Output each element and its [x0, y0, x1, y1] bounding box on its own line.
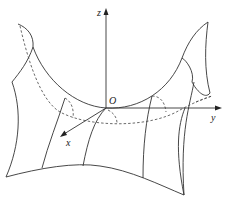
x-axis-label: x: [65, 137, 71, 148]
interior-curve-1: [42, 98, 65, 168]
y-axis-label: y: [210, 112, 216, 123]
surface-diagram: z y x O: [0, 0, 229, 212]
bottom-edge: [6, 165, 184, 195]
z-axis-label: z: [96, 7, 101, 18]
left-edge: [6, 47, 33, 177]
surface-outline: [6, 22, 210, 195]
x-axis: [64, 108, 106, 134]
interior-curve-4: [178, 108, 185, 195]
axes: [60, 8, 222, 137]
origin-label: O: [109, 95, 116, 106]
y-axis-arrowhead: [215, 106, 222, 111]
right-lower-edge: [183, 82, 194, 195]
z-axis-arrowhead: [104, 8, 109, 15]
interior-curve-2: [83, 108, 106, 166]
hidden-curve-right: [152, 96, 166, 112]
hidden-curve-center: [108, 110, 117, 123]
front-top-boundary: [33, 22, 208, 108]
